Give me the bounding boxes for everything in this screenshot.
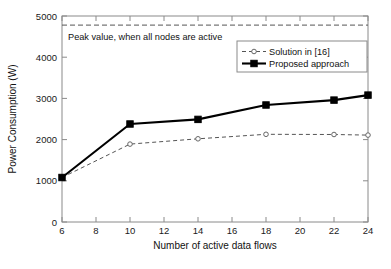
chart-figure: 0 1000 2000 3000 4000 5000 6 8 10 12 14 … <box>0 0 391 269</box>
x-tick-label-8: 22 <box>329 225 340 236</box>
y-tick-label-3: 3000 <box>36 93 57 104</box>
power-consumption-line-chart: 0 1000 2000 3000 4000 5000 6 8 10 12 14 … <box>0 0 391 269</box>
legend-square-marker-icon <box>251 60 257 66</box>
y-tick-label-0: 0 <box>52 217 57 228</box>
x-tick-label-1: 8 <box>93 225 98 236</box>
chart-legend[interactable]: Solution in [16] Proposed approach <box>237 41 367 72</box>
x-tick-label-9: 24 <box>363 225 374 236</box>
data-point <box>59 174 65 180</box>
legend-label-proposed-approach: Proposed approach <box>269 59 349 69</box>
data-point <box>127 121 133 127</box>
y-tick-label-5: 5000 <box>36 11 57 22</box>
y-tick-label-4: 4000 <box>36 52 57 63</box>
y-axis-tick-labels: 0 1000 2000 3000 4000 5000 <box>36 11 57 228</box>
x-tick-label-3: 12 <box>159 225 170 236</box>
data-point <box>264 132 269 137</box>
y-axis-title: Power Consumption (W) <box>7 65 18 174</box>
x-axis-tick-labels: 6 8 10 12 14 16 18 20 22 24 <box>59 225 373 236</box>
data-point <box>332 132 337 137</box>
x-tick-label-4: 14 <box>193 225 204 236</box>
x-tick-label-2: 10 <box>125 225 136 236</box>
y-tick-label-1: 1000 <box>36 175 57 186</box>
data-point <box>263 102 269 108</box>
x-tick-label-5: 16 <box>227 225 238 236</box>
x-tick-label-6: 18 <box>261 225 272 236</box>
data-point <box>128 142 133 147</box>
data-point <box>195 116 201 122</box>
x-axis-title: Number of active data flows <box>153 240 276 251</box>
y-tick-label-2: 2000 <box>36 134 57 145</box>
peak-value-annotation: Peak value, when all nodes are active <box>68 32 222 42</box>
data-point <box>366 133 371 138</box>
legend-circle-marker-icon <box>252 49 257 54</box>
data-point <box>365 92 371 98</box>
x-tick-label-0: 6 <box>59 225 64 236</box>
x-tick-label-7: 20 <box>295 225 306 236</box>
legend-label-solution-in-16: Solution in [16] <box>269 47 330 57</box>
data-point <box>196 137 201 142</box>
data-point <box>331 97 337 103</box>
